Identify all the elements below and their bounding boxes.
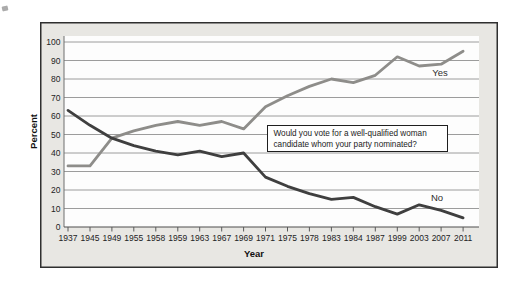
- x-tick-label: 1958: [146, 233, 165, 243]
- x-tick-label: 1975: [278, 233, 297, 243]
- line-chart: 0102030405060708090100 19371945194919551…: [0, 0, 506, 282]
- x-tick-label: 2003: [410, 233, 429, 243]
- y-tick-label: 20: [51, 185, 61, 195]
- y-tick-label: 70: [51, 93, 61, 103]
- x-tick-label: 1984: [344, 233, 363, 243]
- y-tick-label: 80: [51, 74, 61, 84]
- x-tick-label: 1959: [168, 233, 187, 243]
- x-tick-label: 1967: [212, 233, 231, 243]
- y-tick-label: 50: [51, 130, 61, 140]
- y-tick-label: 60: [51, 111, 61, 121]
- x-tick-label: 2007: [432, 233, 451, 243]
- x-tick-label: 1937: [59, 233, 78, 243]
- y-tick-label: 100: [46, 37, 60, 47]
- figure: 0102030405060708090100 19371945194919551…: [0, 0, 506, 282]
- x-axis-title: Year: [244, 248, 264, 259]
- x-tick-label: 1983: [322, 233, 341, 243]
- question-text-line2: candidate whom your party nominated?: [274, 140, 418, 149]
- y-tick-label: 0: [56, 222, 61, 232]
- x-tick-label: 1987: [366, 233, 385, 243]
- y-tick-label: 30: [51, 167, 61, 177]
- question-text-line1: Would you vote for a well-qualified woma…: [274, 129, 428, 138]
- x-tick-label: 2011: [454, 233, 473, 243]
- x-tick-label: 1955: [124, 233, 143, 243]
- no-series-label: No: [431, 192, 443, 203]
- y-axis-title: Percent: [28, 113, 39, 149]
- y-tick-label: 90: [51, 56, 61, 66]
- x-tick-label: 1971: [256, 233, 275, 243]
- x-tick-label: 1978: [300, 233, 319, 243]
- x-tick-label: 1949: [102, 233, 121, 243]
- x-tick-label: 1963: [190, 233, 209, 243]
- x-tick-label: 1999: [388, 233, 407, 243]
- yes-series-label: Yes: [432, 67, 448, 78]
- y-tick-label: 40: [51, 148, 61, 158]
- y-tick-label: 10: [51, 204, 61, 214]
- x-tick-label: 1945: [81, 233, 100, 243]
- x-tick-label: 1969: [234, 233, 253, 243]
